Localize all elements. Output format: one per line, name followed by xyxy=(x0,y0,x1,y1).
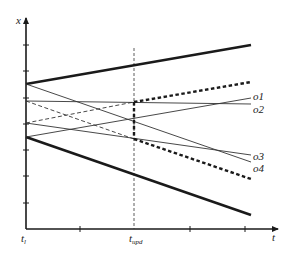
updated-lower-bound-line xyxy=(134,139,251,179)
tick-label-t-l-sub: l xyxy=(24,238,26,246)
series-label-o4: o4 xyxy=(253,163,264,174)
series-label-o1: o1 xyxy=(253,91,264,102)
y-axis-label: x xyxy=(16,15,21,26)
series-label-o2: o2 xyxy=(253,104,264,115)
trajectory-diagram xyxy=(0,0,298,254)
tick-label-t-upd: tupd xyxy=(129,233,143,246)
lower-bound-line xyxy=(26,137,251,215)
tick-label-t-l: tl xyxy=(21,233,26,246)
upper-bound-line xyxy=(26,45,251,84)
tick-label-t-upd-sub: upd xyxy=(132,238,143,246)
dashed-projection-up xyxy=(26,102,134,123)
updated-upper-bound-line xyxy=(134,82,251,102)
series-label-o3: o3 xyxy=(253,151,264,162)
x-axis-label: t xyxy=(272,232,275,243)
trajectory-o4 xyxy=(26,84,251,162)
trajectory-o2 xyxy=(26,101,251,104)
